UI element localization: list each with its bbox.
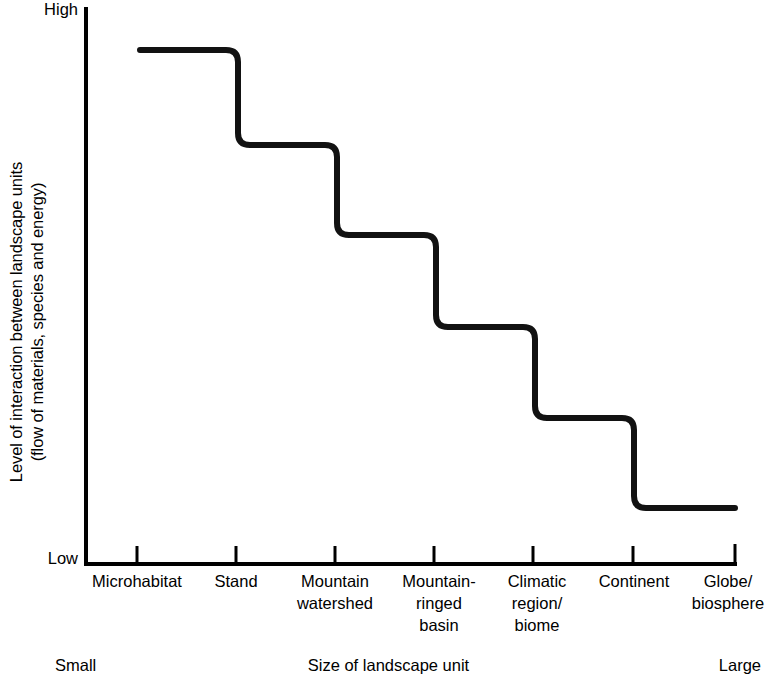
x-tick-label-line-2: watershed	[278, 593, 392, 615]
x-tick-label-stand: Stand	[186, 571, 286, 593]
x-tick-label-line-1: Continent	[577, 571, 691, 593]
x-tick-label-line-3: basin	[383, 615, 495, 637]
y-axis-high-label: High	[8, 0, 78, 19]
x-tick-label-line-1: Stand	[186, 571, 286, 593]
x-tick-label-line-1: Globe/	[679, 571, 777, 593]
x-tick-label-continent: Continent	[577, 571, 691, 593]
x-tick-label-line-1: Climatic	[489, 571, 585, 593]
x-tick-label-line-2: region/	[489, 593, 585, 615]
x-tick-label-line-2: ringed	[383, 593, 495, 615]
y-axis-low-label: Low	[8, 549, 78, 568]
x-axis-title: Size of landscape unit	[0, 656, 777, 675]
x-tick-label-mountain-ringed-basin: Mountain- ringed basin	[383, 571, 495, 636]
x-axis-ticks	[137, 544, 735, 564]
staircase-curve	[140, 50, 735, 508]
y-axis-title: Level of interaction between landscape u…	[0, 32, 55, 612]
x-tick-label-line-2: biosphere	[679, 593, 777, 615]
x-axis-large-label: Large	[719, 656, 761, 675]
chart-figure: Level of interaction between landscape u…	[0, 0, 777, 694]
x-tick-label-globe-biosphere: Globe/ biosphere	[679, 571, 777, 615]
x-tick-label-mountain-watershed: Mountain watershed	[278, 571, 392, 615]
x-tick-label-line-1: Mountain	[278, 571, 392, 593]
x-tick-label-line-3: biome	[489, 615, 585, 637]
y-axis-title-line-1: Level of interaction between landscape u…	[6, 162, 27, 482]
x-tick-label-climatic-region-biome: Climatic region/ biome	[489, 571, 585, 636]
y-axis-title-line-2: (flow of materials, species and energy)	[27, 183, 48, 462]
x-tick-label-line-1: Mountain-	[383, 571, 495, 593]
